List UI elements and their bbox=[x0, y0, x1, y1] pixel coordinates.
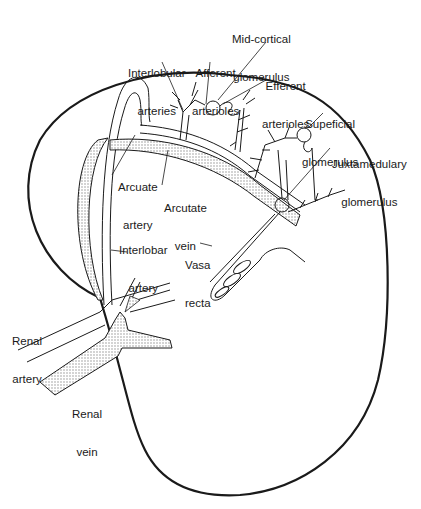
label-interlobar-artery: Interlobar artery bbox=[119, 219, 168, 319]
label-interlobular-arteries: Interlobular arteries bbox=[128, 42, 186, 142]
label-renal-artery: Renal artery bbox=[12, 310, 42, 410]
renal-vein bbox=[40, 312, 172, 395]
kidney-diagram: Mid-cortical glomerulus Interlobular art… bbox=[0, 0, 421, 509]
label-vasa-recta: Vasa recta bbox=[185, 234, 211, 334]
label-renal-vein: Renal vein bbox=[72, 383, 102, 483]
interlobar-vein bbox=[78, 138, 108, 300]
label-afferent-arterioles: Afferent arterioles bbox=[192, 42, 239, 142]
label-juxtamedullary-glomerulus: Juxtamedulary glomerulus bbox=[332, 133, 407, 233]
